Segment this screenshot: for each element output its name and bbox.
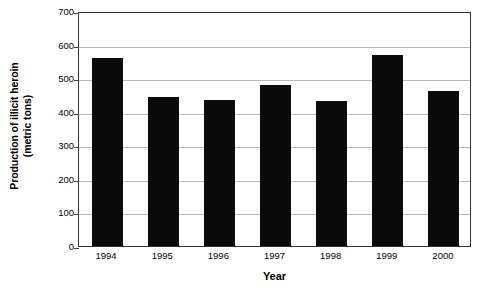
y-axis-tick-labels: 0100200300400500600700 — [42, 0, 74, 297]
plot-area — [78, 12, 471, 247]
y-axis-tick-label: 700 — [42, 7, 74, 17]
x-axis-tick-labels: 1994199519961997199819992000 — [78, 250, 471, 266]
bar-series — [79, 13, 470, 246]
x-axis-title: Year — [78, 270, 471, 282]
y-axis-tick-label: 300 — [42, 141, 74, 151]
y-axis-tick-label: 0 — [42, 242, 74, 252]
y-axis-tick-label: 500 — [42, 74, 74, 84]
x-axis-tick-label: 1997 — [246, 250, 302, 262]
bar — [372, 55, 403, 246]
y-axis-tick-label: 600 — [42, 41, 74, 51]
y-axis-title: Production of illicit heroin (metric ton… — [0, 0, 42, 252]
bar — [428, 91, 459, 246]
y-axis-tick-mark — [74, 248, 79, 249]
bar — [92, 58, 123, 246]
x-axis-tick-label: 1994 — [78, 250, 134, 262]
x-axis-tick-label: 2000 — [415, 250, 471, 262]
bar — [148, 97, 179, 246]
bar — [204, 100, 235, 246]
y-axis-title-line2: (metric tons) — [21, 62, 34, 189]
x-axis-tick-label: 1995 — [134, 250, 190, 262]
bar — [316, 101, 347, 246]
y-axis-title-line1: Production of illicit heroin — [8, 62, 21, 189]
x-axis-tick-label: 1996 — [190, 250, 246, 262]
chart-page: Production of illicit heroin (metric ton… — [0, 0, 485, 297]
bar — [260, 85, 291, 246]
y-axis-title-text: Production of illicit heroin (metric ton… — [8, 62, 34, 189]
x-axis-tick-label: 1998 — [303, 250, 359, 262]
y-axis-tick-label: 200 — [42, 175, 74, 185]
y-axis-tick-label: 400 — [42, 108, 74, 118]
x-axis-tick-label: 1999 — [359, 250, 415, 262]
y-axis-tick-label: 100 — [42, 208, 74, 218]
